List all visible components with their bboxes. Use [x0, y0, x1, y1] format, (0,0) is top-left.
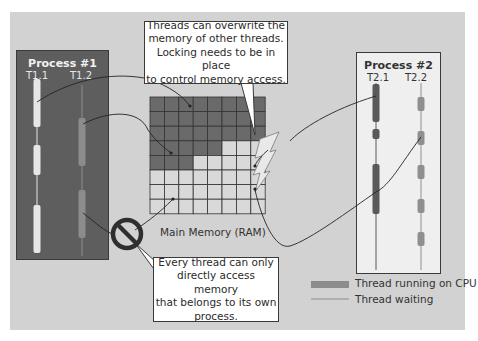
- thread-t1-2: [79, 85, 86, 256]
- memory-cell: [193, 170, 207, 185]
- memory-cell: [208, 199, 222, 214]
- memory-cell: [208, 112, 222, 127]
- memory-cell: [150, 170, 164, 185]
- memory-cell: [222, 141, 236, 156]
- memory-cell: [208, 141, 222, 156]
- thread-t2-2: [418, 83, 425, 270]
- legend-waiting-label: Thread waiting: [355, 293, 433, 305]
- memory-cell: [222, 112, 236, 127]
- memory-cell: [150, 126, 164, 141]
- callout-top-line-3: Locking needs to be in place: [145, 46, 287, 73]
- memory-cell: [179, 97, 193, 112]
- memory-cell: [222, 170, 236, 185]
- memory-cell: [236, 199, 250, 214]
- callout-own-process-memory: Every thread can only directly access me…: [153, 257, 279, 322]
- memory-cell: [236, 155, 250, 170]
- memory-cell: [164, 199, 178, 214]
- memory-cell: [164, 112, 178, 127]
- thread-t1-1: [34, 79, 41, 253]
- memory-cell: [150, 112, 164, 127]
- memory-cell: [236, 185, 250, 200]
- memory-cell: [222, 97, 236, 112]
- memory-cell: [193, 97, 207, 112]
- memory-cell: [193, 126, 207, 141]
- memory-cell: [150, 155, 164, 170]
- callout-bottom-line-2: directly access memory: [154, 269, 278, 296]
- memory-cell: [222, 155, 236, 170]
- memory-cell: [179, 155, 193, 170]
- callout-top-line-1: Threads can overwrite the: [145, 19, 287, 33]
- memory-cell: [222, 185, 236, 200]
- callout-bottom-line-1: Every thread can only: [154, 256, 278, 270]
- callout-bottom-line-3: that belongs to its own: [154, 296, 278, 310]
- memory-cell: [150, 97, 164, 112]
- memory-cell: [179, 185, 193, 200]
- legend-running-label: Thread running on CPU: [355, 277, 477, 289]
- memory-cell: [179, 126, 193, 141]
- memory-cell: [193, 141, 207, 156]
- memory-cell: [208, 97, 222, 112]
- callout-top-line-4: to control memory access.: [145, 73, 287, 87]
- memory-cell: [164, 185, 178, 200]
- memory-cell: [179, 141, 193, 156]
- memory-cell: [208, 185, 222, 200]
- memory-cell: [236, 170, 250, 185]
- memory-cell: [193, 199, 207, 214]
- memory-cell: [193, 185, 207, 200]
- memory-cell: [208, 155, 222, 170]
- memory-cell: [208, 170, 222, 185]
- memory-cell: [193, 112, 207, 127]
- main-memory-grid: [150, 97, 265, 214]
- main-memory-label: Main Memory (RAM): [160, 226, 266, 238]
- no-entry-icon: [113, 220, 141, 248]
- memory-cell: [179, 170, 193, 185]
- memory-cell: [164, 97, 178, 112]
- memory-cell: [164, 170, 178, 185]
- memory-cell: [164, 155, 178, 170]
- callout-top-line-2: memory of other threads.: [145, 32, 287, 46]
- memory-cell: [150, 185, 164, 200]
- memory-cell: [150, 141, 164, 156]
- callout-threads-overwrite: Threads can overwrite the memory of othe…: [144, 21, 288, 84]
- memory-cell: [150, 199, 164, 214]
- memory-cell: [222, 126, 236, 141]
- thread-t2-1: [373, 83, 380, 270]
- memory-cell: [193, 155, 207, 170]
- memory-cell: [179, 112, 193, 127]
- memory-cell: [179, 199, 193, 214]
- memory-cell: [236, 141, 250, 156]
- memory-cell: [236, 126, 250, 141]
- memory-cell: [236, 112, 250, 127]
- memory-cell: [164, 126, 178, 141]
- memory-cell: [222, 199, 236, 214]
- legend-running-swatch: [311, 281, 349, 288]
- callout-bottom-line-4: process.: [154, 310, 278, 324]
- memory-cell: [208, 126, 222, 141]
